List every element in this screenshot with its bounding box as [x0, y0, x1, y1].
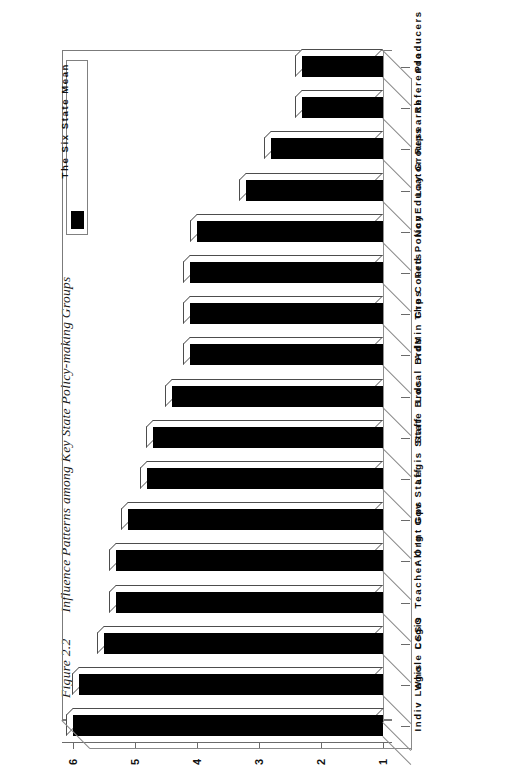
- value-axis-tick: [73, 742, 74, 749]
- value-axis-label: 6: [67, 755, 79, 769]
- chart-bar: [172, 386, 383, 407]
- chart-bar: [302, 56, 383, 77]
- value-axis-label: 3: [253, 755, 265, 769]
- chart-floor-front: [90, 748, 411, 749]
- category-tick: [401, 232, 410, 233]
- figure-caption-area: Figure 2.2Influence Patterns among Key S…: [0, 0, 46, 776]
- chart-bar: [246, 180, 383, 201]
- category-tick: [401, 355, 410, 356]
- category-tick: [401, 479, 410, 480]
- chart-bar: [73, 715, 384, 736]
- category-tick: [401, 108, 410, 109]
- legend-label: The Six State Mean: [59, 37, 75, 207]
- category-tick: [401, 603, 410, 604]
- category-tick: [401, 685, 410, 686]
- chart-bar: [104, 633, 383, 654]
- chart-bar: [190, 344, 383, 365]
- category-tick: [401, 726, 410, 727]
- category-tick: [401, 644, 410, 645]
- legend-swatch-icon: [71, 211, 84, 229]
- category-tick: [401, 273, 410, 274]
- chart-bar: [271, 138, 383, 159]
- chart-bar: [147, 468, 383, 489]
- value-axis-line: [62, 742, 392, 743]
- category-tick: [401, 520, 410, 521]
- chart-category-axis-line: [383, 50, 384, 722]
- value-axis-label: 5: [129, 755, 141, 769]
- chart-bar: [79, 674, 383, 695]
- category-tick: [401, 191, 410, 192]
- chart-bar: [128, 509, 383, 530]
- value-axis-label: 4: [191, 755, 203, 769]
- category-tick: [401, 149, 410, 150]
- chart-bar: [153, 427, 383, 448]
- chart-bar: [116, 550, 383, 571]
- chart-bar: [190, 303, 383, 324]
- category-tick: [401, 561, 410, 562]
- chart-bar: [197, 221, 383, 242]
- chart-bar: [116, 592, 383, 613]
- category-tick: [401, 438, 410, 439]
- chart-bar: [302, 97, 383, 118]
- chart-outer-right-edge: [411, 78, 412, 750]
- chart-plot-area: The Six State Mean ProducersReferendaRes…: [52, 42, 472, 742]
- value-axis-label: 2: [315, 755, 327, 769]
- category-tick: [401, 314, 410, 315]
- category-tick: [401, 397, 410, 398]
- category-tick: [401, 67, 410, 68]
- category-label: Indiv Legis: [412, 663, 423, 731]
- category-label: Teacher Org: [412, 534, 423, 608]
- value-axis-label: 1: [377, 755, 389, 769]
- chart-bar: [190, 262, 383, 283]
